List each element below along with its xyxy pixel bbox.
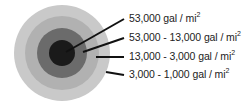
label-outer: 3,000 - 1,000 gal / mi2 xyxy=(129,68,229,80)
ring-core xyxy=(49,40,75,66)
label-core: 53,000 gal / mi2 xyxy=(129,12,200,24)
label-zone-3: 13,000 - 3,000 gal / mi2 xyxy=(129,50,235,62)
label-zone-2: 53,000 - 13,000 gal / mi2 xyxy=(129,31,241,43)
leader-line-4 xyxy=(106,72,124,75)
